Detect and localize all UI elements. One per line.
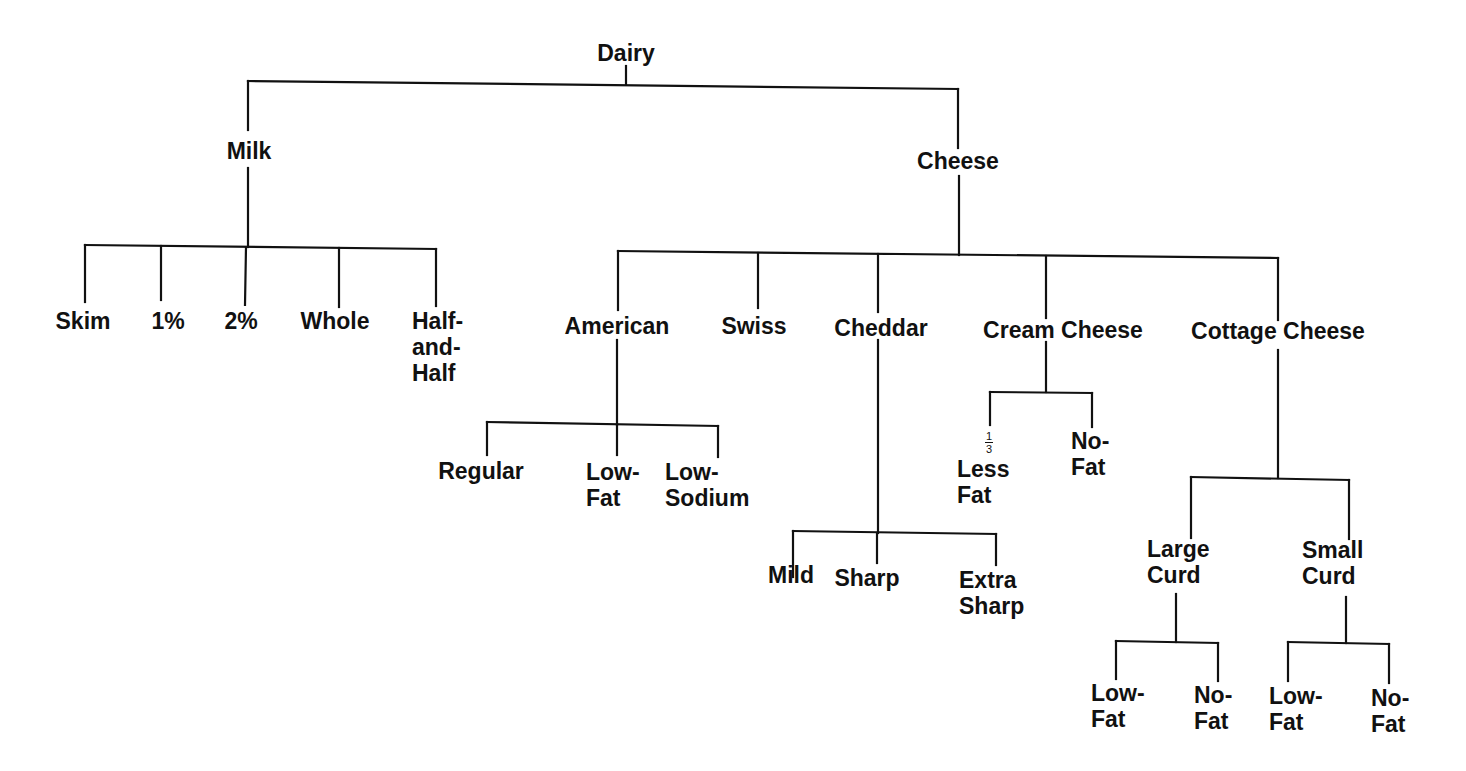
node-dairy: Dairy bbox=[597, 40, 655, 66]
node-whole: Whole bbox=[301, 308, 370, 334]
node-cheddar-sharp: Sharp bbox=[834, 565, 899, 591]
node-small-curd: Small Curd bbox=[1302, 537, 1363, 589]
node-american-regular: Regular bbox=[438, 458, 524, 484]
node-2-percent: 2% bbox=[224, 308, 257, 334]
fraction-one-third: 1 3 bbox=[985, 431, 993, 454]
node-cheddar: Cheddar bbox=[834, 315, 927, 341]
node-cottage-cheese: Cottage Cheese bbox=[1191, 318, 1365, 344]
node-skim: Skim bbox=[56, 308, 111, 334]
node-cream-cheese: Cream Cheese bbox=[983, 317, 1143, 343]
connector-lines bbox=[0, 0, 1466, 771]
node-large-curd: Large Curd bbox=[1147, 536, 1210, 588]
node-american-low-fat: Low- Fat bbox=[586, 459, 640, 511]
node-cheddar-extra-sharp: Extra Sharp bbox=[959, 567, 1024, 619]
fraction-numerator: 1 bbox=[986, 430, 992, 442]
node-cream-no-fat: No- Fat bbox=[1071, 428, 1109, 480]
node-1-percent: 1% bbox=[151, 308, 184, 334]
node-large-curd-low-fat: Low- Fat bbox=[1091, 680, 1145, 732]
node-swiss: Swiss bbox=[721, 313, 786, 339]
node-half-and-half: Half- and- Half bbox=[412, 308, 463, 386]
node-large-curd-no-fat: No- Fat bbox=[1194, 682, 1232, 734]
fraction-denominator: 3 bbox=[986, 443, 992, 455]
node-american: American bbox=[565, 313, 670, 339]
node-american-low-sodium: Low- Sodium bbox=[665, 459, 749, 511]
node-cream-less-fat: Less Fat bbox=[957, 456, 1009, 508]
node-cheese: Cheese bbox=[917, 148, 999, 174]
node-small-curd-no-fat: No- Fat bbox=[1371, 685, 1409, 737]
dairy-tree-diagram: Dairy Milk Cheese Skim 1% 2% Whole Half-… bbox=[0, 0, 1466, 771]
node-small-curd-low-fat: Low- Fat bbox=[1269, 683, 1323, 735]
node-milk: Milk bbox=[227, 138, 272, 164]
node-cheddar-mild: Mild bbox=[768, 562, 814, 588]
